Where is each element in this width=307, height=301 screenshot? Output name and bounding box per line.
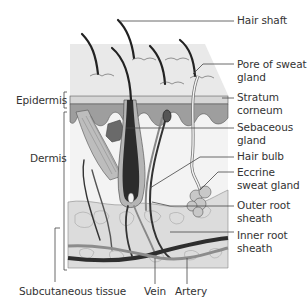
label-outer-root-sheath: Outer root sheath [237, 199, 301, 225]
label-subcutaneous-tissue: Subcutaneous tissue [19, 285, 126, 298]
layer-brackets [55, 92, 67, 282]
label-stratum-corneum: Stratum corneum [237, 91, 297, 117]
label-eccrine-sweat-gland: Eccrine sweat gland [237, 166, 307, 192]
label-hair-bulb: Hair bulb [237, 150, 284, 163]
label-artery: Artery [175, 285, 207, 298]
label-pore-of-sweat-gland: Pore of sweat gland [237, 58, 307, 84]
sweat-duct-loop [163, 110, 171, 122]
label-sebaceous-gland: Sebaceous gland [237, 121, 301, 147]
label-hair-shaft: Hair shaft [237, 14, 287, 27]
label-vein: Vein [144, 285, 166, 298]
label-inner-root-sheath: Inner root sheath [237, 229, 301, 255]
label-epidermis: Epidermis [16, 94, 67, 107]
dermal-papilla [128, 193, 134, 203]
label-dermis: Dermis [30, 152, 67, 165]
stratum-corneum-layer [70, 96, 228, 104]
